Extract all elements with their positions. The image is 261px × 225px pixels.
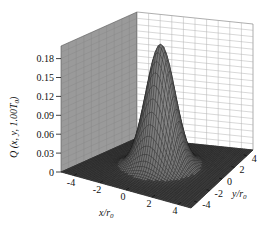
z-tick-label: 0.12	[37, 91, 55, 102]
z-tick-label: 0.06	[37, 129, 55, 140]
x-tick-label: 0	[121, 191, 126, 202]
z-axis-label: Q (x, y, 1.00T0)	[8, 96, 21, 158]
x-axis-label: x/r0	[98, 207, 114, 220]
x-tick-label: 4	[173, 205, 178, 216]
y-tick-label: 2	[239, 164, 244, 175]
x-tick-label: -4	[67, 177, 75, 188]
y-tick-label: 4	[252, 153, 257, 164]
z-tick-label: 0.09	[37, 110, 55, 121]
y-tick-label: -2	[215, 188, 223, 199]
z-tick-label: 0.15	[37, 72, 55, 83]
x-tick-label: -2	[93, 184, 101, 195]
y-tick-label: -4	[202, 199, 210, 210]
y-tick-label: 0	[227, 176, 232, 187]
z-tick-label: 0.18	[37, 53, 55, 64]
surface-plot: 00.030.060.090.120.150.18-4-2024-4-2024 …	[0, 0, 261, 225]
z-tick-label: 0	[49, 167, 54, 178]
x-tick-label: 2	[147, 198, 152, 209]
y-axis-label: y/r0	[231, 188, 247, 201]
z-tick-label: 0.03	[37, 148, 55, 159]
